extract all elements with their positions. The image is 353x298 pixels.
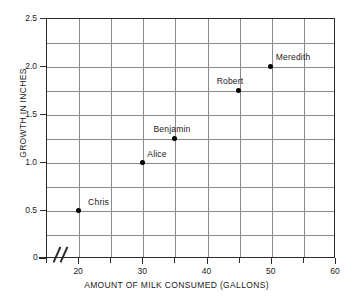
x-axis-tick bbox=[207, 258, 208, 264]
data-point-label: Benjamin bbox=[153, 124, 190, 134]
x-axis-minor-tick bbox=[239, 258, 240, 263]
x-axis-tick bbox=[335, 258, 336, 264]
chart-screen: 0 AMOUNT OF MILK CONSUMED (GALLONS) GROW… bbox=[0, 0, 353, 298]
gridline-horizontal bbox=[47, 67, 334, 68]
y-axis-tick bbox=[40, 18, 46, 19]
gridline-vertical bbox=[272, 19, 273, 257]
x-axis-break-icon bbox=[52, 246, 74, 266]
y-axis-tick bbox=[40, 114, 46, 115]
x-axis-tick bbox=[142, 258, 143, 264]
x-axis-tick-label: 60 bbox=[330, 266, 339, 276]
gridline-vertical bbox=[111, 19, 112, 257]
data-point-label: Meredith bbox=[276, 52, 311, 62]
gridline-vertical bbox=[79, 19, 80, 257]
x-axis-tick bbox=[78, 258, 79, 264]
y-axis-tick-label: 0.5 bbox=[4, 205, 37, 215]
gridline-horizontal bbox=[47, 163, 334, 164]
x-axis-minor-tick bbox=[46, 258, 47, 263]
data-point-label: Chris bbox=[88, 197, 109, 207]
data-point bbox=[236, 88, 241, 93]
data-point bbox=[268, 64, 273, 69]
gridline-horizontal bbox=[47, 91, 334, 92]
y-axis-tick-label: 2.0 bbox=[4, 61, 37, 71]
gridline-vertical bbox=[143, 19, 144, 257]
y-axis-tick-label: 2.5 bbox=[4, 13, 37, 23]
y-axis-tick bbox=[40, 210, 46, 211]
gridline-vertical bbox=[208, 19, 209, 257]
x-axis-title: AMOUNT OF MILK CONSUMED (GALLONS) bbox=[0, 280, 353, 290]
gridline-vertical bbox=[240, 19, 241, 257]
gridline-horizontal bbox=[47, 211, 334, 212]
gridline-horizontal bbox=[47, 235, 334, 236]
x-axis-tick-label: 20 bbox=[73, 266, 82, 276]
x-axis-minor-tick bbox=[174, 258, 175, 263]
gridline-horizontal bbox=[47, 43, 334, 44]
y-axis-tick-label: 1.5 bbox=[4, 109, 37, 119]
y-axis-tick-label: 1.0 bbox=[4, 157, 37, 167]
x-axis-minor-tick bbox=[303, 258, 304, 263]
data-point bbox=[140, 160, 145, 165]
data-point bbox=[172, 136, 177, 141]
y-axis-zero-label: 0 bbox=[33, 252, 38, 262]
gridline-horizontal bbox=[47, 115, 334, 116]
y-axis-tick bbox=[40, 66, 46, 67]
x-axis-tick bbox=[271, 258, 272, 264]
x-axis-tick-label: 40 bbox=[202, 266, 211, 276]
data-point bbox=[76, 208, 81, 213]
gridline-horizontal bbox=[47, 187, 334, 188]
x-axis-tick-label: 50 bbox=[266, 266, 275, 276]
data-point-label: Alice bbox=[147, 149, 166, 159]
y-axis-tick bbox=[40, 162, 46, 163]
data-point-label: Robert bbox=[217, 76, 244, 86]
x-axis-minor-tick bbox=[110, 258, 111, 263]
x-axis-tick-label: 30 bbox=[138, 266, 147, 276]
gridline-horizontal bbox=[47, 139, 334, 140]
